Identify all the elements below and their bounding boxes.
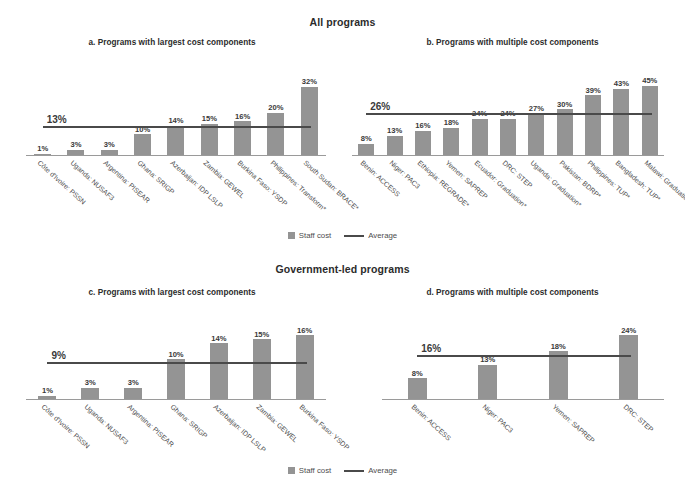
bar-value-label: 13%	[387, 127, 402, 135]
bar-value-label: 20%	[268, 104, 283, 112]
x-labels-d: Benin: ACCESSNiger: PAC3Yemen: SAPREPDRC…	[382, 402, 664, 403]
x-label-slot: Zambia: GEWEL	[193, 158, 226, 159]
x-label-slot: Philippines: Transform*	[259, 158, 292, 159]
x-label-slot: Ecuador: Graduation*	[465, 158, 493, 159]
bar	[478, 365, 497, 400]
bar	[210, 343, 228, 400]
bar-value-label: 16%	[415, 122, 430, 130]
bar	[613, 89, 629, 156]
legend-item-staff-cost: Staff cost	[288, 231, 331, 240]
bar	[472, 119, 488, 156]
panel-title-c: c. Programs with largest cost components	[12, 288, 332, 297]
bar	[301, 87, 318, 156]
bar	[167, 359, 185, 400]
cropped-header-text	[0, 0, 685, 6]
x-axis-c	[26, 399, 326, 400]
x-label-slot: Argentina: PISEAR	[112, 402, 155, 403]
average-label-a: 13%	[47, 115, 67, 125]
x-axis-label: Argentina: PISEAR	[126, 403, 175, 448]
bars-a: 1%3%3%10%14%15%16%20%32%	[26, 56, 326, 156]
bar-group: 45%	[636, 56, 664, 156]
bar	[585, 95, 601, 156]
x-axis-label: Benin: ACCESS	[411, 403, 453, 442]
chart-d: 8%13%18%24% 16% Benin: ACCESSNiger: PAC3…	[382, 305, 664, 400]
legend-bottom: Staff cost Average	[0, 466, 685, 475]
x-axis-label: Ethiopia: REGRADE*	[416, 159, 470, 209]
bar-group: 18%	[523, 305, 594, 400]
panel-title-a: a. Programs with largest cost components	[12, 38, 332, 47]
x-axis-label: Uganda: NUSAF3	[84, 403, 130, 446]
chart-a: 1%3%3%10%14%15%16%20%32% 13% Côte d'Ivoi…	[26, 56, 326, 156]
bar-group: 18%	[437, 56, 465, 156]
x-label-slot: Benin: ACCESS	[352, 158, 380, 159]
bar-group: 1%	[26, 56, 59, 156]
bar-value-label: 14%	[211, 335, 226, 343]
bar-value-label: 39%	[585, 87, 600, 95]
bar-group: 20%	[259, 56, 292, 156]
bar	[134, 134, 151, 156]
bar-value-label: 13%	[480, 356, 495, 364]
bar-group: 24%	[594, 305, 665, 400]
bar	[619, 335, 638, 400]
bar-group: 14%	[197, 305, 240, 400]
legend-label-average: Average	[368, 231, 397, 240]
bar-value-label: 18%	[551, 343, 566, 351]
x-axis-label: Côte d'Ivoire: PSSN	[41, 403, 92, 450]
x-label-slot: Ghana: SRIGP	[126, 158, 159, 159]
x-label-slot: Niger: PAC3	[380, 158, 408, 159]
bar-value-label: 14%	[168, 117, 183, 125]
x-label-slot: Ghana: SRIGP	[155, 402, 198, 403]
line-swatch-icon	[344, 235, 364, 237]
bar	[500, 119, 516, 156]
bar-group: 43%	[607, 56, 635, 156]
x-label-slot: Azerbaijan: IDP LSLP	[197, 402, 240, 403]
x-label-slot: DRC: STEP	[594, 402, 665, 403]
x-label-slot: DRC: STEP	[494, 158, 522, 159]
bar-value-label: 30%	[557, 101, 572, 109]
x-label-slot: Niger: PAC3	[453, 402, 524, 403]
bar-value-label: 32%	[302, 78, 317, 86]
x-label-slot: Burkina Faso: YSDP	[226, 158, 259, 159]
section-title-all-programs: All programs	[0, 16, 685, 28]
bar-group: 30%	[551, 56, 579, 156]
bar-value-label: 43%	[614, 80, 629, 88]
x-label-slot: Philippines: TUP*	[579, 158, 607, 159]
legend-label-staff-cost: Staff cost	[299, 231, 331, 240]
bar-swatch-icon	[288, 467, 295, 474]
x-label-slot: Yemen: SAPREP	[523, 402, 594, 403]
bar-group: 16%	[283, 305, 326, 400]
x-label-slot: Côte d'Ivoire: PSSN	[26, 402, 69, 403]
legend-label-average: Average	[368, 466, 397, 475]
bar	[408, 378, 427, 400]
x-axis-a	[26, 155, 326, 156]
bar-value-label: 16%	[297, 327, 312, 335]
bar	[443, 128, 459, 156]
bar-group: 8%	[382, 305, 453, 400]
bars-b: 8%13%16%18%24%24%27%30%39%43%45%	[352, 56, 664, 156]
bar-group: 13%	[453, 305, 524, 400]
bar-group: 15%	[240, 305, 283, 400]
line-swatch-icon	[344, 470, 364, 472]
x-label-slot: Bangladesh: TUP*	[607, 158, 635, 159]
average-line-d	[417, 355, 631, 357]
bar-value-label: 8%	[412, 370, 423, 378]
bar-group: 14%	[159, 56, 192, 156]
bar	[253, 339, 271, 400]
bar	[557, 109, 573, 156]
bar-group: 24%	[494, 56, 522, 156]
bar-group: 16%	[409, 56, 437, 156]
legend-item-average: Average	[344, 466, 397, 475]
bar	[528, 114, 544, 156]
legend-item-average: Average	[344, 231, 397, 240]
x-label-slot: Azerbaijan: IDP LSLP	[159, 158, 192, 159]
legend-item-staff-cost: Staff cost	[288, 466, 331, 475]
bar-value-label: 8%	[361, 135, 372, 143]
x-axis-label: Niger: PAC3	[481, 403, 514, 434]
bar-group: 10%	[126, 56, 159, 156]
x-axis-label: South Sudan: BRACE*	[303, 159, 361, 212]
bar-group: 3%	[69, 305, 112, 400]
bar-swatch-icon	[288, 232, 295, 239]
bar	[549, 351, 568, 400]
bar	[642, 86, 658, 156]
x-axis-label: Yemen: SAPREP	[552, 403, 597, 444]
